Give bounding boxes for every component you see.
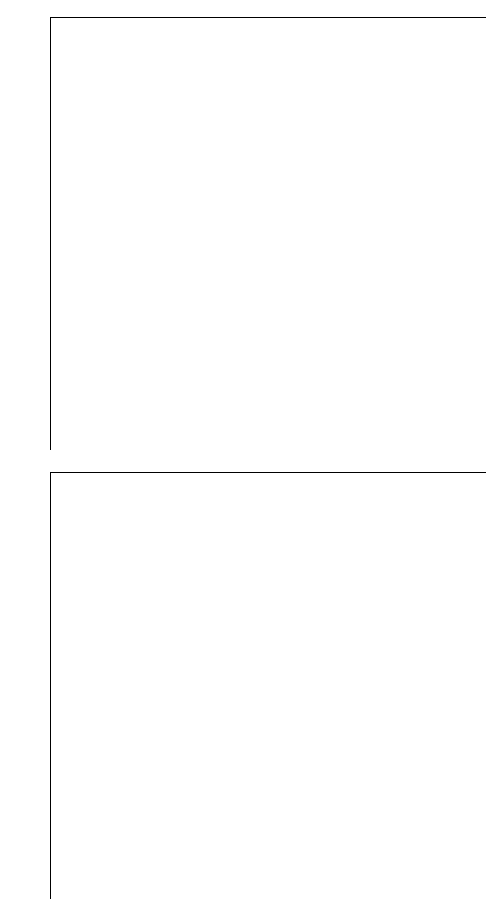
x-axis-top <box>50 0 486 18</box>
plot-area-top <box>50 18 486 450</box>
chart-panel-bottom <box>0 455 497 899</box>
x-axis-bottom <box>50 455 486 473</box>
y-axis-line <box>50 18 51 450</box>
plot-area-bottom <box>50 473 486 899</box>
chart-page <box>0 0 497 899</box>
chart-panel-top <box>0 0 497 450</box>
y-axis-line <box>50 473 51 899</box>
